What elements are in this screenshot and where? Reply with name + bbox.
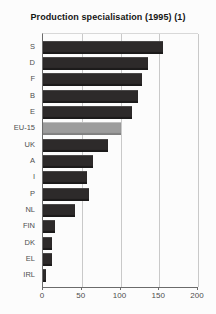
- category-label-p: P: [30, 189, 39, 198]
- bar-row: [43, 235, 198, 251]
- x-tick-label-150: 150: [152, 291, 165, 300]
- y-label-row: UK: [0, 136, 39, 152]
- chart-page: Production specialisation (1995) (1) SDF…: [0, 0, 216, 314]
- bar-row: [43, 137, 198, 153]
- x-tick-mark-0: [42, 287, 43, 290]
- bar-uk: [43, 139, 108, 152]
- x-tick-label-200: 200: [190, 291, 203, 300]
- plot-area: [42, 33, 198, 288]
- gridline-200: [198, 34, 199, 287]
- x-tick-mark-50: [81, 287, 82, 290]
- y-label-row: P: [0, 185, 39, 201]
- category-label-f: F: [30, 74, 39, 83]
- x-tick-label-100: 100: [113, 291, 126, 300]
- category-label-uk: UK: [25, 140, 39, 149]
- y-label-row: S: [0, 38, 39, 54]
- category-label-irl: IRL: [23, 270, 39, 279]
- y-label-row: DK: [0, 234, 39, 250]
- y-label-row: A: [0, 152, 39, 168]
- bar-b: [43, 90, 138, 103]
- chart-title: Production specialisation (1995) (1): [0, 12, 216, 22]
- bar-irl: [43, 269, 46, 282]
- category-label-el: EL: [26, 254, 39, 263]
- x-tick-mark-200: [197, 287, 198, 290]
- bar-eu-15: [43, 122, 121, 135]
- x-tick-mark-100: [120, 287, 121, 290]
- bar-row: [43, 104, 198, 120]
- bar-row: [43, 153, 198, 169]
- x-axis: 050100150200: [42, 287, 197, 303]
- bar-row: [43, 72, 198, 88]
- category-label-dk: DK: [25, 238, 39, 247]
- bar-row: [43, 170, 198, 186]
- category-label-nl: NL: [25, 205, 39, 214]
- bar-row: [43, 186, 198, 202]
- y-label-row: EL: [0, 250, 39, 266]
- y-label-row: D: [0, 54, 39, 70]
- bar-row: [43, 88, 198, 104]
- category-label-s: S: [30, 42, 39, 51]
- y-label-row: NL: [0, 201, 39, 217]
- bar-s: [43, 41, 163, 54]
- bar-row: [43, 219, 198, 235]
- category-label-eu-15: EU-15: [14, 123, 39, 132]
- bar-e: [43, 106, 132, 119]
- y-label-row: F: [0, 71, 39, 87]
- category-label-d: D: [30, 58, 39, 67]
- bar-row: [43, 268, 198, 284]
- category-label-b: B: [30, 91, 39, 100]
- y-label-row: I: [0, 169, 39, 185]
- x-tick-mark-150: [158, 287, 159, 290]
- category-label-i: I: [33, 172, 39, 181]
- bar-dk: [43, 237, 52, 250]
- y-label-row: FIN: [0, 218, 39, 234]
- bar-nl: [43, 204, 75, 217]
- x-tick-label-0: 0: [40, 291, 44, 300]
- category-label-e: E: [30, 107, 39, 116]
- category-label-fin: FIN: [23, 221, 39, 230]
- bar-row: [43, 55, 198, 71]
- category-label-a: A: [30, 156, 39, 165]
- bar-f: [43, 73, 142, 86]
- bar-row: [43, 39, 198, 55]
- bar-fin: [43, 220, 55, 233]
- x-tick-label-50: 50: [76, 291, 85, 300]
- bar-a: [43, 155, 93, 168]
- bar-row: [43, 121, 198, 137]
- y-label-row: E: [0, 103, 39, 119]
- bar-i: [43, 171, 87, 184]
- y-label-row: B: [0, 87, 39, 103]
- bar-series: [43, 34, 198, 287]
- y-label-row: IRL: [0, 267, 39, 283]
- y-label-row: EU-15: [0, 120, 39, 136]
- bar-d: [43, 57, 148, 70]
- y-axis-labels: SDFBEEU-15UKAIPNLFINDKELIRL: [0, 33, 39, 286]
- bar-el: [43, 253, 52, 266]
- bar-row: [43, 251, 198, 267]
- bar-p: [43, 188, 89, 201]
- bar-row: [43, 202, 198, 218]
